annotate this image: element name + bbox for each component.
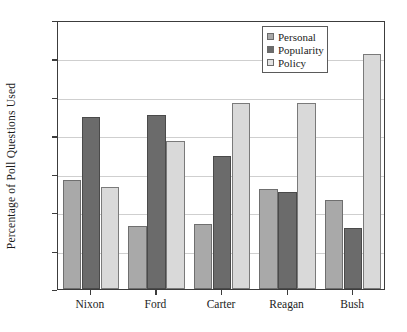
gridline bbox=[58, 137, 384, 138]
legend-item-policy: Policy bbox=[267, 56, 323, 69]
bar-nixon-popularity bbox=[82, 117, 101, 289]
x-tick-mark bbox=[155, 290, 156, 295]
bar-nixon-policy bbox=[101, 187, 120, 289]
bar-ford-personal bbox=[128, 226, 147, 289]
bar-carter-popularity bbox=[213, 156, 232, 289]
bar-ford-popularity bbox=[147, 115, 166, 289]
bar-bush-personal bbox=[325, 200, 344, 289]
legend-box: Personal Popularity Policy bbox=[262, 26, 328, 73]
bar-bush-policy bbox=[363, 54, 382, 289]
x-tick-mark bbox=[221, 290, 222, 295]
bar-chart-figure: Percentage of Poll Questions Used 010203… bbox=[0, 0, 407, 332]
x-tick-mark bbox=[352, 290, 353, 295]
legend-item-personal: Personal bbox=[267, 30, 323, 43]
legend-swatch-popularity-icon bbox=[267, 46, 274, 53]
legend-label-popularity: Popularity bbox=[278, 44, 324, 56]
bar-carter-policy bbox=[232, 103, 251, 289]
bar-nixon-personal bbox=[63, 180, 82, 289]
bar-reagan-personal bbox=[259, 189, 278, 289]
legend-item-popularity: Popularity bbox=[267, 43, 323, 56]
bar-carter-personal bbox=[194, 224, 213, 289]
x-tick-mark bbox=[287, 290, 288, 295]
y-tick-mark bbox=[52, 290, 57, 291]
legend-label-personal: Personal bbox=[278, 31, 316, 43]
bar-bush-popularity bbox=[344, 228, 363, 289]
plot-area bbox=[57, 21, 385, 290]
x-tick-mark bbox=[90, 290, 91, 295]
gridline bbox=[58, 60, 384, 61]
bar-ford-policy bbox=[166, 141, 185, 289]
legend-label-policy: Policy bbox=[278, 57, 306, 69]
y-axis-title: Percentage of Poll Questions Used bbox=[0, 0, 22, 332]
legend-swatch-policy-icon bbox=[267, 59, 274, 66]
bar-reagan-popularity bbox=[278, 192, 297, 289]
legend-swatch-personal-icon bbox=[267, 33, 274, 40]
gridline bbox=[58, 99, 384, 100]
x-tick-label-bush: Bush bbox=[312, 298, 392, 310]
bar-reagan-policy bbox=[297, 103, 316, 289]
